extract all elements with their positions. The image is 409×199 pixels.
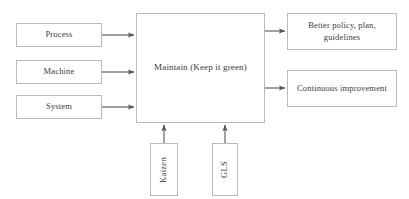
output-box-better-policy-label: Better policy, plan, guidelines <box>288 20 396 42</box>
center-box-maintain-label: Maintain (Keep it green) <box>151 62 250 74</box>
enabler-box-kaizen: Kaizen <box>150 143 178 196</box>
enabler-box-gls: GLS <box>212 143 238 196</box>
enabler-box-gls-label: GLS <box>219 161 230 178</box>
input-box-process-label: Process <box>42 29 75 40</box>
input-box-system: System <box>16 95 102 119</box>
output-box-better-policy: Better policy, plan, guidelines <box>287 13 397 50</box>
output-box-continuous-improvement-label: Continuous improvement <box>294 83 390 94</box>
output-box-continuous-improvement: Continuous improvement <box>287 70 397 107</box>
center-box-maintain: Maintain (Keep it green) <box>136 13 265 123</box>
input-box-process: Process <box>16 23 102 47</box>
input-box-machine: Machine <box>16 60 102 84</box>
diagram-canvas: Process Machine System Maintain (Keep it… <box>0 0 409 199</box>
input-box-system-label: System <box>43 101 75 112</box>
enabler-box-kaizen-label: Kaizen <box>158 157 169 183</box>
input-box-machine-label: Machine <box>41 66 78 77</box>
